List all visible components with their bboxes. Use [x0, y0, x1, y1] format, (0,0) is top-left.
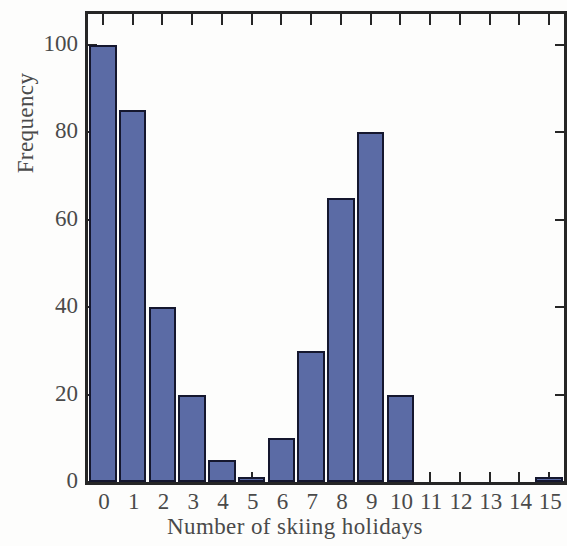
y-axis-title: Frequency: [13, 23, 39, 223]
x-tick-top-13: [489, 14, 491, 25]
y-tick-label-20: 20: [55, 381, 78, 407]
histogram-figure: Frequency Number of skiing holidays 0204…: [0, 0, 567, 546]
y-tick-right-60: [555, 219, 564, 221]
x-tick-top-5: [251, 14, 253, 25]
x-axis-line: [85, 482, 567, 485]
y-tick-label-40: 40: [55, 293, 78, 319]
bar-10: [387, 395, 414, 482]
bar-1: [119, 110, 146, 482]
x-tick-top-9: [370, 14, 372, 25]
y-tick-label-0: 0: [67, 468, 79, 494]
bar-7: [297, 351, 324, 482]
x-tick-top-7: [310, 14, 312, 25]
y-tick-right-40: [555, 306, 564, 308]
x-tick-top-11: [429, 14, 431, 25]
x-tick-top-14: [518, 14, 520, 25]
x-tick-top-4: [221, 14, 223, 25]
x-tick-top-12: [459, 14, 461, 25]
y-tick-label-100: 100: [44, 31, 79, 57]
x-tick-top-15: [548, 14, 550, 25]
bar-5: [238, 477, 265, 482]
y-axis-line: [85, 11, 88, 485]
y-tick-right-80: [555, 131, 564, 133]
y-tick-label-60: 60: [55, 206, 78, 232]
x-tick-label-15: 15: [530, 489, 567, 515]
x-tick-top-2: [161, 14, 163, 25]
bar-4: [208, 460, 235, 482]
plot-area: 020406080100 0123456789101112131415: [85, 11, 567, 485]
x-tick-12: [459, 472, 461, 482]
y-tick-right-20: [555, 394, 564, 396]
x-tick-top-1: [132, 14, 134, 25]
bar-3: [178, 395, 205, 482]
bar-0: [89, 45, 116, 482]
x-tick-top-0: [102, 14, 104, 25]
x-tick-11: [429, 472, 431, 482]
bar-2: [149, 307, 176, 482]
x-tick-14: [518, 472, 520, 482]
x-tick-13: [489, 472, 491, 482]
x-tick-top-8: [340, 14, 342, 25]
top-axis-line: [85, 11, 567, 14]
x-tick-top-10: [399, 14, 401, 25]
bar-15: [535, 477, 562, 482]
bar-8: [327, 198, 354, 482]
x-tick-top-6: [280, 14, 282, 25]
x-tick-top-3: [191, 14, 193, 25]
y-tick-label-80: 80: [55, 118, 78, 144]
y-tick-right-100: [555, 44, 564, 46]
x-axis-title: Number of skiing holidays: [85, 514, 505, 540]
bar-9: [357, 132, 384, 482]
bar-6: [268, 438, 295, 482]
